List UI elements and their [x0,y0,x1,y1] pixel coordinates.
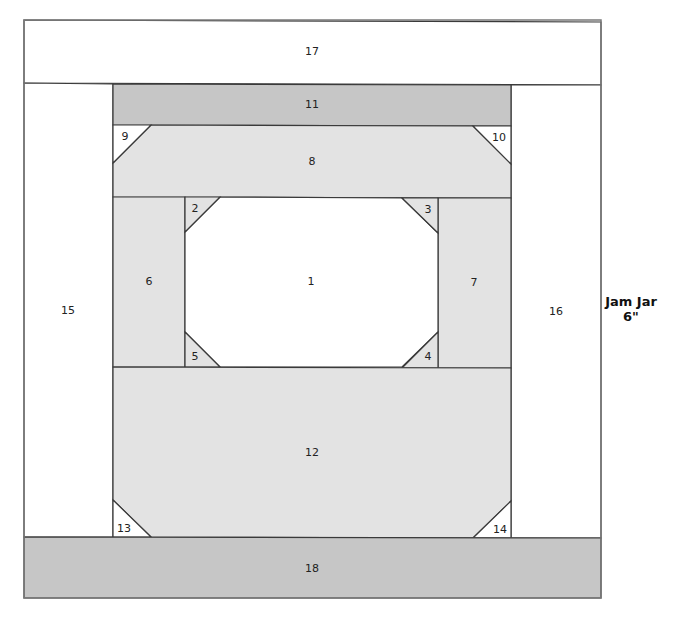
piece-label-13: 13 [117,522,131,535]
piece-label-15: 15 [61,304,75,317]
pattern-name: Jam Jar [604,294,658,309]
piece-label-17: 17 [305,45,319,58]
piece-label-16: 16 [549,305,563,318]
piece-label-2: 2 [192,202,199,215]
piece-label-14: 14 [493,523,507,536]
piece-label-9: 9 [122,130,129,143]
pattern-title: Jam Jar 6" [604,294,658,324]
piece-label-6: 6 [146,275,153,288]
piece-label-10: 10 [492,131,506,144]
piece-label-4: 4 [425,350,432,363]
pattern-size: 6" [604,309,658,324]
piece-label-12: 12 [305,446,319,459]
piece-label-1: 1 [308,275,315,288]
piece-label-5: 5 [192,350,199,363]
piece-label-11: 11 [305,98,319,111]
piece-label-8: 8 [309,155,316,168]
piece-label-3: 3 [425,203,432,216]
piece-label-18: 18 [305,562,319,575]
piece-label-7: 7 [471,276,478,289]
paper-piecing-pattern: 171516118910671235412131418 [0,0,682,626]
